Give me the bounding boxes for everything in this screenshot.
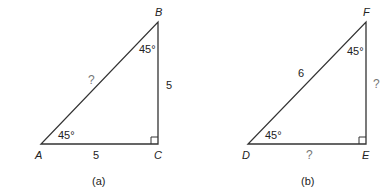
diagram-canvas [0,0,383,195]
angle-label-d: 45° [265,129,282,141]
triangle-abc [41,22,158,144]
right-angle-marker-c [151,137,158,144]
angle-label-a: 45° [58,129,75,141]
side-label-ef: ? [373,78,380,90]
right-angle-marker-e [359,137,366,144]
triangle-def [248,22,366,144]
vertex-label-a: A [35,149,42,161]
caption-b: (b) [301,175,314,187]
angle-label-f: 45° [347,45,364,57]
vertex-label-b: B [155,6,162,18]
vertex-label-d: D [242,149,250,161]
side-label-bc: 5 [166,79,172,91]
side-label-df: 6 [298,67,304,79]
side-label-ac: 5 [93,149,99,161]
side-label-de: ? [306,149,313,161]
vertex-label-f: F [363,6,370,18]
caption-a: (a) [92,175,105,187]
side-label-ab: ? [88,74,95,86]
vertex-label-e: E [362,149,369,161]
angle-label-b: 45° [139,43,156,55]
vertex-label-c: C [154,149,162,161]
